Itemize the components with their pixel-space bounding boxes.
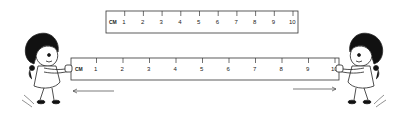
arrow-left-icon bbox=[73, 89, 114, 93]
top-ruler-unit: CM bbox=[109, 19, 117, 25]
stretched-ruler: CM 12345678910 bbox=[71, 58, 339, 80]
top-ruler: CM 12345678910 bbox=[106, 11, 298, 33]
top-ruler-tick-label: 10 bbox=[289, 19, 296, 25]
stretched-ruler-unit: CM bbox=[75, 66, 83, 72]
ruler-illustration: CM 12345678910 CM 12345678910 bbox=[0, 0, 408, 120]
girl-right bbox=[336, 33, 386, 107]
top-ruler-body bbox=[106, 11, 298, 33]
stretched-ruler-body bbox=[71, 58, 339, 80]
arrow-right-icon bbox=[293, 87, 336, 91]
girl-left bbox=[22, 33, 72, 107]
